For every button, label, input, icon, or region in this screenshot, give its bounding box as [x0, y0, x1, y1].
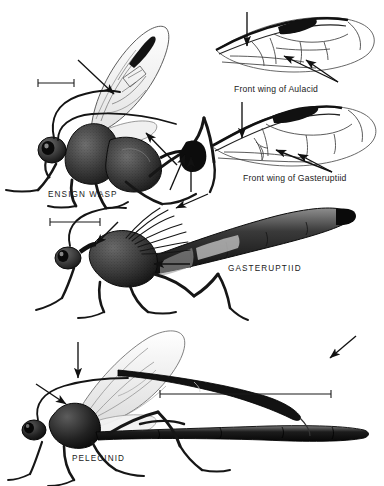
arrow-to-abdomen-base	[176, 194, 208, 208]
illustration-plate: ENSIGN WASP	[0, 0, 384, 486]
aulacid-forewing-caption: Front wing of Aulacid	[234, 84, 318, 94]
ensign-forewing	[92, 26, 169, 132]
ensign-eye	[42, 141, 55, 155]
gasteruptiid-figure	[30, 190, 360, 320]
ensign-scale-bar	[38, 79, 74, 87]
gasteruptiid-forewing-caption: Front wing of Gasteruptiid	[243, 173, 347, 183]
gasteruptiid-forewing-diagram	[210, 96, 384, 178]
ensign-hind-femur	[180, 140, 207, 172]
pelecinid-eye	[24, 423, 34, 434]
gasteruptiid-label: GASTERUPTIID	[228, 264, 302, 273]
pelecinid-label: PELECINID	[72, 454, 125, 463]
arrow-to-detached-antenna	[330, 336, 356, 358]
gasteruptiid-ovipositor-tip	[336, 208, 356, 225]
gasteruptiid-scale-bar	[50, 218, 100, 226]
pelecinid-figure	[8, 320, 384, 480]
gasteruptiid-eye	[58, 250, 69, 262]
aulacid-forewing-diagram	[212, 4, 384, 88]
ensign-wasp-figure	[0, 0, 230, 210]
